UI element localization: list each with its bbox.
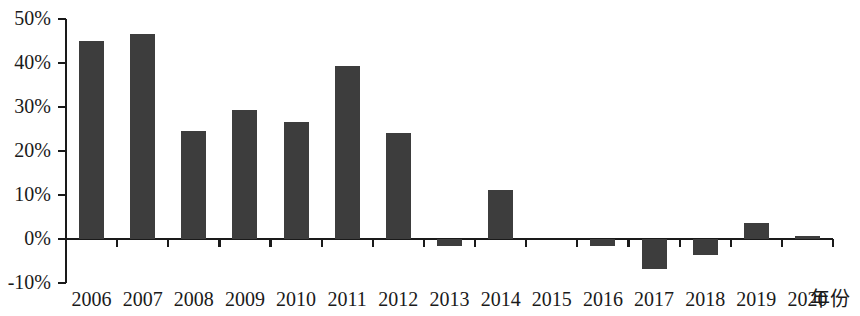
x-tick-label-2007: 2007 (123, 288, 163, 310)
bar-2007 (130, 34, 155, 239)
bar-2016 (590, 239, 615, 246)
x-tick-label-2018: 2018 (685, 288, 725, 310)
x-tick-label-2011: 2011 (328, 288, 367, 310)
bar-2008 (181, 131, 206, 239)
x-tick-label-2017: 2017 (634, 288, 674, 310)
x-axis-title: 年份 (810, 288, 850, 310)
chart-canvas: 50%40%30%20%10%0%-10% 200620072008200920… (0, 0, 860, 316)
x-tick-label-2010: 2010 (276, 288, 316, 310)
y-tick-label: 0% (24, 227, 51, 249)
x-tick-label-2019: 2019 (736, 288, 776, 310)
x-tick-label-2014: 2014 (481, 288, 521, 310)
bar-series (79, 34, 820, 269)
bar-2019 (744, 223, 769, 239)
x-tick-label-2016: 2016 (583, 288, 623, 310)
y-axis: 50%40%30%20%10%0%-10% (8, 7, 66, 293)
y-tick-label: 10% (14, 183, 51, 205)
x-tick-label-2013: 2013 (430, 288, 470, 310)
bar-2011 (335, 66, 360, 239)
bar-2012 (386, 133, 411, 239)
y-tick-label: 50% (14, 7, 51, 29)
y-tick-label: 20% (14, 139, 51, 161)
bar-2014 (488, 190, 513, 239)
y-tick-label: 30% (14, 95, 51, 117)
bar-2018 (693, 239, 718, 255)
bar-2017 (642, 239, 667, 269)
x-tick-labels: 2006200720082009201020112012201320142015… (72, 288, 828, 310)
x-tick-label-2015: 2015 (532, 288, 572, 310)
y-tick-label: 40% (14, 51, 51, 73)
bar-2010 (284, 122, 309, 239)
x-tick-label-2012: 2012 (378, 288, 418, 310)
bar-2013 (437, 239, 462, 246)
x-tick-label-2006: 2006 (72, 288, 112, 310)
x-tick-label-2009: 2009 (225, 288, 265, 310)
bar-chart: 50%40%30%20%10%0%-10% 200620072008200920… (0, 0, 860, 316)
y-tick-label: -10% (8, 271, 51, 293)
bar-2020 (795, 236, 820, 239)
bar-2009 (232, 110, 257, 239)
bar-2006 (79, 41, 104, 239)
x-tick-label-2008: 2008 (174, 288, 214, 310)
